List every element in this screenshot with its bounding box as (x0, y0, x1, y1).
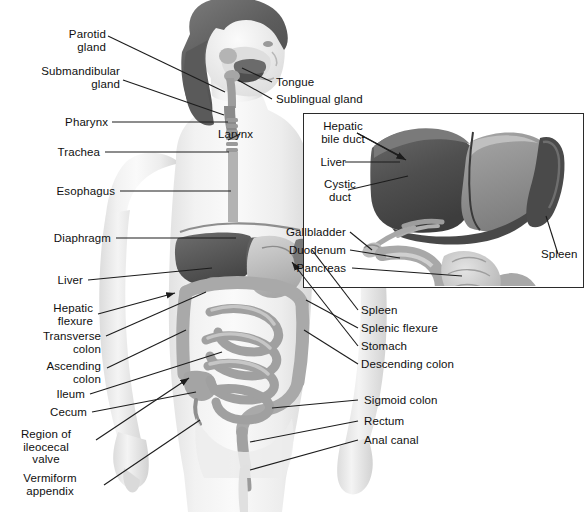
label-parotid-gland: Parotid gland (0, 28, 106, 53)
label-duodenum: Duodenum (262, 244, 346, 257)
label-sublingual-gland: Sublingual gland (276, 93, 396, 106)
label-tongue: Tongue (276, 76, 366, 89)
label-rectum: Rectum (364, 415, 484, 428)
label-ascending-colon: Ascending colon (0, 360, 101, 385)
label-hepatic-bile-duct: Hepatic bile duct (306, 120, 380, 145)
label-ileum: Ileum (0, 388, 85, 401)
label-esophagus: Esophagus (0, 185, 115, 198)
label-hepatic-flexure: Hepatic flexure (0, 302, 93, 327)
label-spleen: Spleen (361, 304, 481, 317)
label-inset-liver: Liver (298, 156, 346, 169)
label-diaphragm: Diaphragm (0, 232, 111, 245)
label-gallbladder: Gallbladder (258, 226, 346, 239)
label-transverse-colon: Transverse colon (0, 330, 101, 355)
label-submandibular-gland: Submandibular gland (0, 65, 120, 90)
label-region-of-ileocecal-valve: Region of ileocecal valve (0, 428, 92, 466)
label-sigmoid-colon: Sigmoid colon (364, 394, 504, 407)
digestive-system-figure: Parotid gland Submandibular gland Pharyn… (0, 0, 588, 512)
label-anal-canal: Anal canal (364, 434, 494, 447)
label-cecum: Cecum (0, 406, 87, 419)
label-liver: Liver (0, 274, 83, 287)
label-trachea: Trachea (0, 146, 100, 159)
label-cystic-duct: Cystic duct (310, 178, 370, 203)
label-pharynx: Pharynx (0, 116, 108, 129)
label-larynx: Larynx (218, 128, 288, 141)
label-stomach: Stomach (361, 340, 481, 353)
label-descending-colon: Descending colon (361, 358, 511, 371)
label-pancreas: Pancreas (268, 262, 346, 275)
label-splenic-flexure: Splenic flexure (361, 322, 501, 335)
label-inset-spleen: Spleen (541, 248, 588, 261)
label-vermiform-appendix: Vermiform appendix (0, 472, 100, 497)
